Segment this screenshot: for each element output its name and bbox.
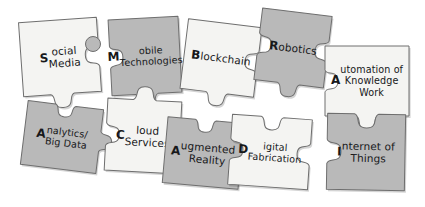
puzzle-piece-shape [310,97,422,207]
puzzle-piece-internet-of-things[interactable]: Internet of Things [310,97,422,207]
puzzle-diagram: Social MediaMobile TechnologiesBlockchai… [0,0,425,207]
connector-social-mobile-icon [85,36,101,52]
